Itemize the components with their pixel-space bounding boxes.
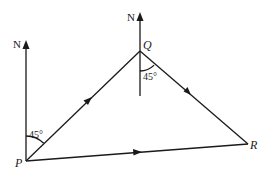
north-label-q: N (127, 11, 135, 23)
bearing-diagram: N N 45° 45° P Q R (0, 0, 268, 172)
line-pq (26, 51, 140, 161)
line-qr (140, 51, 248, 144)
point-label-r: R (249, 138, 258, 152)
north-arrowhead-q (137, 12, 144, 21)
arrowhead-qr (184, 87, 192, 95)
angle-label-q: 45° (143, 71, 157, 82)
point-label-q: Q (143, 38, 152, 52)
north-label-p: N (13, 38, 21, 50)
angle-label-p: 45° (29, 129, 43, 140)
arrowhead-pr (133, 149, 142, 156)
point-label-p: P (14, 156, 23, 170)
north-arrowhead-p (23, 40, 30, 49)
